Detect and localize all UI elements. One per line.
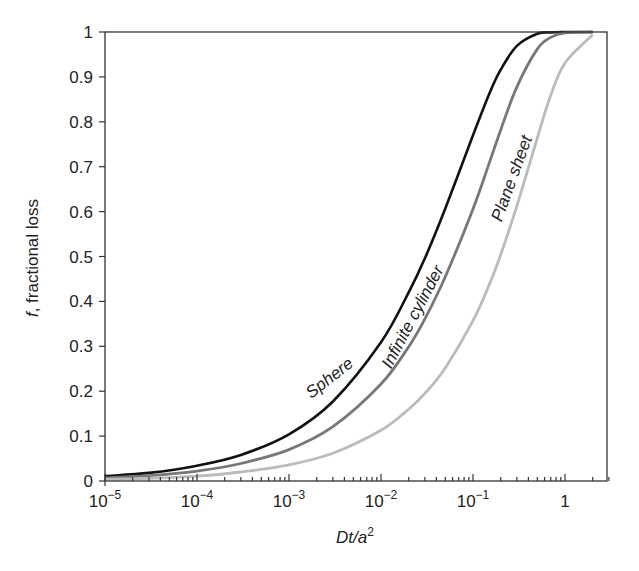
y-axis: 00.10.20.30.40.50.60.70.80.91	[69, 23, 105, 491]
y-tick-label: 0.5	[69, 248, 93, 267]
x-tick-label: 10−4	[181, 488, 214, 511]
y-tick-label: 0.1	[69, 427, 93, 446]
chart: 00.10.20.30.40.50.60.70.80.91 10−510−410…	[0, 0, 639, 571]
x-axis: 10−510−410−310−210−11	[89, 474, 609, 511]
x-tick-label: 10−5	[89, 488, 122, 511]
x-axis-label: Dt/a2	[336, 525, 374, 547]
curve-label: Sphere	[302, 354, 357, 403]
y-tick-label: 0	[84, 472, 93, 491]
curve-label: Infinite cylinder	[378, 261, 449, 371]
chart-svg: 00.10.20.30.40.50.60.70.80.91 10−510−410…	[0, 0, 639, 571]
x-tick-label: 1	[560, 492, 569, 511]
plot-frame	[105, 32, 607, 481]
x-tick-label: 10−2	[365, 488, 398, 511]
curves	[105, 32, 593, 479]
y-tick-label: 0.2	[69, 382, 93, 401]
sphere-curve	[105, 32, 593, 476]
x-tick-label: 10−3	[273, 488, 306, 511]
y-tick-label: 1	[84, 23, 93, 42]
y-tick-label: 0.3	[69, 337, 93, 356]
y-tick-label: 0.7	[69, 158, 93, 177]
infinite-cylinder-curve	[105, 32, 593, 478]
x-tick-label: 10−1	[457, 488, 490, 511]
y-tick-label: 0.9	[69, 68, 93, 87]
y-axis-label: f, fractional loss	[23, 199, 42, 317]
y-tick-label: 0.8	[69, 113, 93, 132]
y-tick-label: 0.4	[69, 292, 93, 311]
y-tick-label: 0.6	[69, 203, 93, 222]
curve-labels: SphereInfinite cylinderPlane sheet	[302, 132, 536, 403]
